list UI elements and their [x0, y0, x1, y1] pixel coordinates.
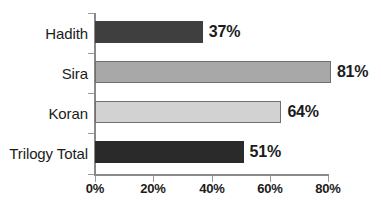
x-axis-tick-label-20: 20% [131, 181, 175, 196]
y-axis-tick [88, 174, 94, 175]
value-label-koran: 64% [287, 103, 318, 121]
category-label-sira: Sira [62, 65, 88, 82]
y-axis-tick [88, 13, 94, 14]
bar-chart: Hadith 37% Sira 81% Koran 64% Trilogy To… [0, 0, 381, 208]
category-label-hadith: Hadith [45, 25, 88, 42]
y-axis-tick [88, 133, 94, 134]
bar-sira [95, 61, 331, 83]
value-label-hadith: 37% [209, 23, 240, 41]
y-axis-tick [88, 53, 94, 54]
bar-hadith [95, 21, 203, 43]
x-axis-tick-label-0: 0% [73, 181, 117, 196]
value-label-trilogy-total: 51% [250, 143, 281, 161]
value-label-sira: 81% [337, 63, 368, 81]
x-axis-tick-label-80: 80% [306, 181, 350, 196]
bar-trilogy-total [95, 141, 244, 163]
x-axis-tick-label-40: 40% [190, 181, 234, 196]
y-axis-tick [88, 93, 94, 94]
category-label-trilogy-total: Trilogy Total [9, 145, 88, 162]
category-label-koran: Koran [48, 105, 88, 122]
x-axis-tick-label-60: 60% [248, 181, 292, 196]
bar-koran [95, 101, 281, 123]
